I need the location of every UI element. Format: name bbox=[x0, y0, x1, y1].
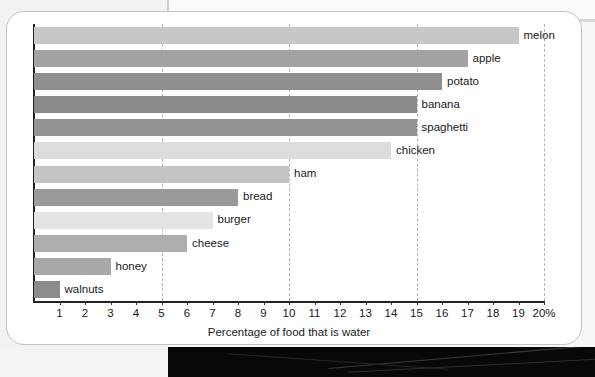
bar-row[interactable]: banana bbox=[34, 96, 460, 113]
x-tick-label-13: 13 bbox=[359, 307, 372, 319]
x-tick-mark-1 bbox=[60, 301, 61, 305]
backdrop-bottom-left bbox=[0, 347, 168, 377]
x-tick-label-9: 9 bbox=[260, 307, 266, 319]
bar-honey[interactable] bbox=[34, 258, 111, 275]
bar-row[interactable]: bread bbox=[34, 189, 272, 206]
x-axis-title: Percentage of food that is water bbox=[34, 326, 544, 338]
x-tick-mark-16 bbox=[442, 301, 443, 305]
x-tick-mark-6 bbox=[187, 301, 188, 305]
bar-row[interactable]: ham bbox=[34, 166, 316, 183]
backdrop-dark-region bbox=[168, 347, 595, 377]
x-tick-label-2: 2 bbox=[82, 307, 88, 319]
x-tick-mark-13 bbox=[366, 301, 367, 305]
x-tick-mark-18 bbox=[493, 301, 494, 305]
x-tick-label-18: 18 bbox=[487, 307, 500, 319]
x-tick-mark-19 bbox=[519, 301, 520, 305]
x-tick-mark-5 bbox=[162, 301, 163, 305]
x-tick-label-19: 19 bbox=[512, 307, 525, 319]
x-tick-label-8: 8 bbox=[235, 307, 241, 319]
bar-row[interactable]: spaghetti bbox=[34, 119, 468, 136]
bar-label-banana: banana bbox=[422, 99, 460, 111]
x-tick-mark-17 bbox=[468, 301, 469, 305]
gridline-20 bbox=[544, 24, 546, 301]
x-tick-label-3: 3 bbox=[107, 307, 113, 319]
bar-label-cheese: cheese bbox=[192, 238, 229, 250]
bar-melon[interactable] bbox=[34, 27, 519, 44]
x-tick-mark-15 bbox=[417, 301, 418, 305]
x-tick-label-17: 17 bbox=[461, 307, 474, 319]
x-tick-label-1: 1 bbox=[56, 307, 62, 319]
bar-bread[interactable] bbox=[34, 189, 238, 206]
x-tick-mark-2 bbox=[85, 301, 86, 305]
bar-chart-plot-area: melonapplepotatobananaspaghettichickenha… bbox=[34, 24, 544, 301]
bar-ham[interactable] bbox=[34, 166, 289, 183]
bar-spaghetti[interactable] bbox=[34, 119, 417, 136]
x-tick-label-7: 7 bbox=[209, 307, 215, 319]
bar-row[interactable]: chicken bbox=[34, 142, 435, 159]
bar-label-spaghetti: spaghetti bbox=[422, 122, 469, 134]
x-tick-mark-20 bbox=[544, 301, 545, 305]
x-tick-label-11: 11 bbox=[309, 307, 321, 319]
x-tick-label-4: 4 bbox=[133, 307, 139, 319]
bar-walnuts[interactable] bbox=[34, 281, 60, 298]
x-tick-mark-4 bbox=[136, 301, 137, 305]
x-tick-mark-10 bbox=[289, 301, 290, 305]
bar-label-bread: bread bbox=[243, 191, 272, 203]
bar-cheese[interactable] bbox=[34, 235, 187, 252]
backdrop-dark-streak bbox=[228, 353, 448, 369]
x-tick-label-16: 16 bbox=[436, 307, 449, 319]
bar-banana[interactable] bbox=[34, 96, 417, 113]
bar-row[interactable]: burger bbox=[34, 212, 251, 229]
bar-row[interactable]: potato bbox=[34, 73, 479, 90]
bar-label-melon: melon bbox=[524, 30, 555, 42]
x-tick-mark-9 bbox=[264, 301, 265, 305]
bar-burger[interactable] bbox=[34, 212, 213, 229]
x-tick-label-14: 14 bbox=[385, 307, 398, 319]
x-tick-label-15: 15 bbox=[410, 307, 423, 319]
bar-row[interactable]: apple bbox=[34, 50, 501, 67]
bar-row[interactable]: cheese bbox=[34, 235, 229, 252]
x-tick-label-6: 6 bbox=[184, 307, 190, 319]
bar-apple[interactable] bbox=[34, 50, 468, 67]
x-tick-mark-8 bbox=[238, 301, 239, 305]
bar-row[interactable]: melon bbox=[34, 27, 555, 44]
x-tick-label-12: 12 bbox=[334, 307, 347, 319]
bar-chicken[interactable] bbox=[34, 142, 391, 159]
bar-potato[interactable] bbox=[34, 73, 442, 90]
x-tick-mark-12 bbox=[340, 301, 341, 305]
bar-row[interactable]: honey bbox=[34, 258, 147, 275]
bar-label-honey: honey bbox=[116, 261, 147, 273]
x-tick-mark-3 bbox=[111, 301, 112, 305]
bar-label-chicken: chicken bbox=[396, 145, 435, 157]
bar-label-walnuts: walnuts bbox=[65, 284, 104, 296]
bar-row[interactable]: walnuts bbox=[34, 281, 104, 298]
x-tick-mark-14 bbox=[391, 301, 392, 305]
x-tick-mark-11 bbox=[315, 301, 316, 305]
x-tick-mark-7 bbox=[213, 301, 214, 305]
x-tick-label-20: 20% bbox=[532, 307, 555, 319]
x-tick-label-5: 5 bbox=[158, 307, 164, 319]
chart-card: melonapplepotatobananaspaghettichickenha… bbox=[6, 11, 582, 345]
bar-label-apple: apple bbox=[473, 53, 501, 65]
bar-label-potato: potato bbox=[447, 76, 479, 88]
x-tick-label-10: 10 bbox=[283, 307, 296, 319]
bar-label-burger: burger bbox=[218, 214, 251, 226]
bar-label-ham: ham bbox=[294, 168, 316, 180]
